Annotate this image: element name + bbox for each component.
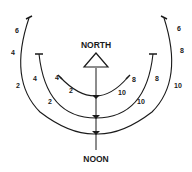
inner-tick-left-2: 2 [69, 87, 73, 94]
inner-tick-right-10: 10 [118, 89, 126, 96]
middle-tick-left-2: 2 [48, 98, 52, 105]
middle-tick-right-10: 10 [137, 98, 145, 105]
inner-tick-right-8: 8 [132, 76, 136, 83]
outer-tick-right-8: 8 [180, 47, 184, 54]
outer-tick-left-2: 2 [16, 82, 20, 89]
inner-tick-left-4: 4 [55, 74, 59, 81]
outer-tick-right-10: 10 [174, 82, 182, 89]
middle-tick-left-4: 4 [33, 75, 37, 82]
outer-tick-left-6: 6 [15, 27, 19, 34]
sun-path-diagram: NORTH NOON 4 2 8 10 4 2 8 10 6 4 2 6 8 1… [0, 0, 192, 172]
inner-arc-end-right [126, 75, 130, 79]
middle-tick-right-8: 8 [155, 75, 159, 82]
inner-arc-noon-marker-icon [92, 95, 100, 99]
noon-label: NOON [83, 154, 109, 164]
north-label: NORTH [81, 40, 111, 50]
north-triangle-icon [84, 53, 108, 67]
outer-tick-left-4: 4 [11, 49, 15, 56]
outer-tick-right-6: 6 [177, 25, 181, 32]
